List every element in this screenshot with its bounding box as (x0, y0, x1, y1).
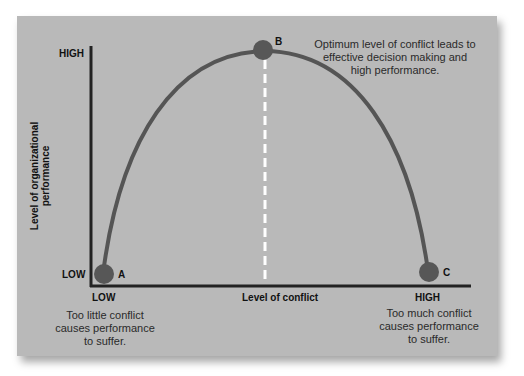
optimum-note-line: effective decision making and (310, 51, 480, 64)
y-axis-label: Level of organizational performance (29, 96, 51, 256)
optimum-note-line: Optimum level of conflict leads to (310, 38, 480, 51)
too-much-note: Too much conflict causes performance to … (379, 307, 479, 346)
x-axis-low-label: LOW (92, 292, 115, 303)
point-c-label: C (443, 267, 450, 278)
too-much-note-line: Too much conflict (379, 307, 479, 320)
x-axis-high-label: HIGH (415, 292, 440, 303)
optimum-note: Optimum level of conflict leads to effec… (310, 38, 480, 77)
too-little-note-line: Too little conflict (55, 309, 155, 322)
point-b-marker (253, 40, 273, 60)
too-much-note-line: to suffer. (379, 333, 479, 346)
point-c-marker (419, 262, 439, 282)
x-axis-label: Level of conflict (242, 292, 318, 303)
point-b-label: B (275, 36, 282, 47)
y-axis-low-label: LOW (62, 269, 85, 280)
too-little-note-line: causes performance (55, 322, 155, 335)
too-much-note-line: causes performance (379, 320, 479, 333)
y-axis-high-label: HIGH (59, 48, 84, 59)
point-a-label: A (118, 269, 125, 280)
too-little-note: Too little conflict causes performance t… (55, 309, 155, 348)
too-little-note-line: to suffer. (55, 335, 155, 348)
optimum-note-line: high performance. (310, 64, 480, 77)
point-a-marker (94, 264, 114, 284)
